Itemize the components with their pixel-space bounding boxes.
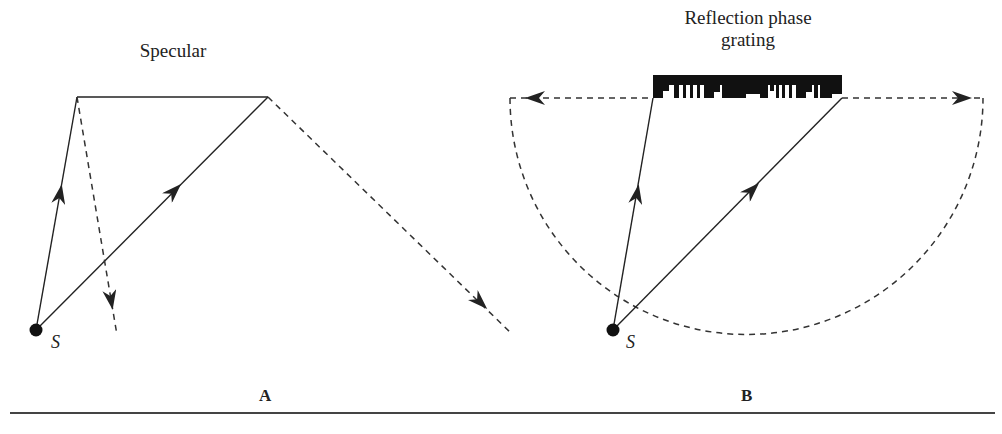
bottom-rule bbox=[10, 412, 995, 414]
grating-label-line2: grating bbox=[600, 29, 896, 51]
grating-label-line1: Reflection phase bbox=[600, 7, 896, 29]
reflected-ray-right bbox=[268, 97, 512, 334]
panel-b bbox=[510, 75, 983, 337]
diffraction-figure: Specular Reflection phase grating S S A … bbox=[0, 0, 1002, 434]
source-label-b: S bbox=[626, 332, 635, 353]
figure-canvas bbox=[0, 0, 1002, 434]
panel-letter-b: B bbox=[741, 386, 752, 406]
panel-letter-a: A bbox=[259, 386, 271, 406]
source-point bbox=[30, 324, 43, 337]
scattered-wavefront-arc bbox=[510, 98, 983, 335]
source-label-a: S bbox=[51, 332, 60, 353]
reflected-ray-left bbox=[77, 97, 117, 335]
panel-a bbox=[30, 97, 513, 337]
grating-label: Reflection phase grating bbox=[600, 7, 896, 51]
phase-grating bbox=[653, 75, 842, 98]
specular-label: Specular bbox=[0, 40, 346, 62]
source-point bbox=[607, 324, 620, 337]
